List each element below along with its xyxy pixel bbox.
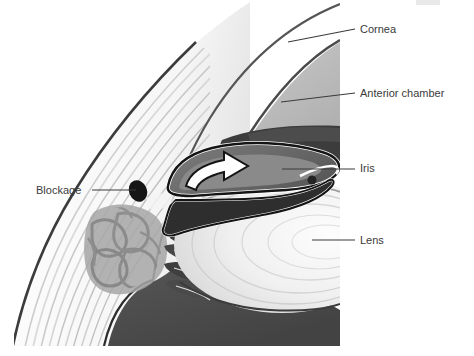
label-lens: Lens	[360, 234, 384, 246]
eye-anatomy-figure: Cornea Anterior chamber Iris Lens Blocka…	[0, 0, 474, 356]
pupil-margin-node	[308, 176, 317, 185]
eye-diagram-canvas: Cornea Anterior chamber Iris Lens Blocka…	[0, 0, 474, 356]
label-cornea: Cornea	[360, 23, 397, 35]
illustration-group	[12, 0, 392, 352]
scan-artifact	[416, 0, 440, 5]
label-iris: Iris	[360, 162, 375, 174]
label-blockage: Blockage	[36, 184, 81, 196]
label-anterior-chamber: Anterior chamber	[360, 87, 445, 99]
